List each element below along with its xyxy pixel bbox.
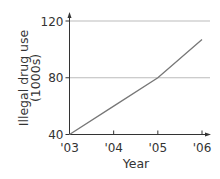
x-axis-title: Year <box>122 156 150 171</box>
y-tick-label: 120 <box>41 15 64 29</box>
data-line <box>70 39 203 134</box>
y-tick-label: 80 <box>48 71 63 85</box>
x-tick-label: '04 <box>104 141 123 155</box>
x-tick-label: '03 <box>60 141 79 155</box>
x-tick-label: '06 <box>193 141 212 155</box>
svg-text:(1000s): (1000s) <box>28 54 43 102</box>
line-chart: 4080120 '03'04'05'06 Year Illegal drug u… <box>0 0 220 179</box>
x-axis-arrow-icon <box>205 133 211 137</box>
gridlines <box>70 21 211 78</box>
y-axis-arrow-icon <box>68 12 72 18</box>
y-ticks: 4080120 <box>41 15 70 143</box>
y-axis-title: Illegal drug use (1000s) <box>16 30 43 127</box>
x-tick-label: '05 <box>149 141 168 155</box>
